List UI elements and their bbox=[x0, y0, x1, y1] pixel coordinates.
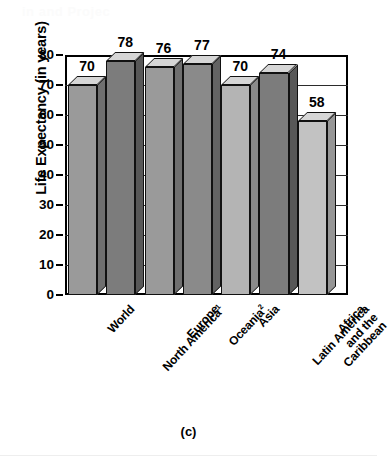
y-tick-mark-80 bbox=[56, 54, 63, 56]
y-tick-mark-70 bbox=[56, 84, 63, 86]
figure-caption: (c) bbox=[0, 424, 377, 439]
y-tick-mark-20 bbox=[56, 234, 63, 236]
x-label-0: World bbox=[105, 303, 136, 335]
y-tick-mark-0 bbox=[56, 294, 63, 296]
page-edge-line bbox=[0, 455, 377, 456]
y-tick-mark-30 bbox=[56, 204, 63, 206]
y-tick-mark-50 bbox=[56, 144, 63, 146]
y-tick-mark-60 bbox=[56, 114, 63, 116]
y-tick-mark-40 bbox=[56, 174, 63, 176]
y-tick-mark-10 bbox=[56, 264, 63, 266]
